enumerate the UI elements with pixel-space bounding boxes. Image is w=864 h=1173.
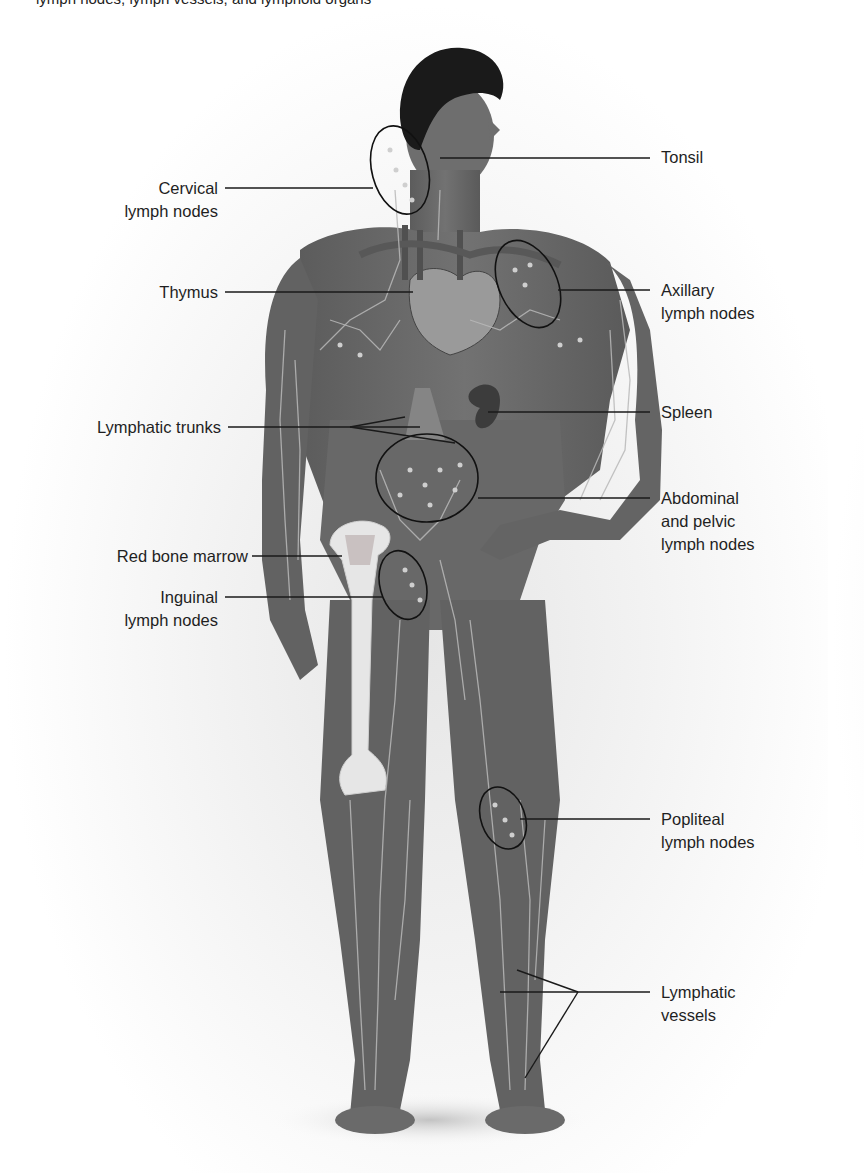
label-abdominal-pelvic-lymph-nodes: Abdominal and pelvic lymph nodes — [661, 487, 755, 556]
label-tonsil: Tonsil — [661, 146, 703, 169]
label-lymphatic-vessels: Lymphatic vessels — [661, 981, 736, 1027]
label-lymphatic-trunks: Lymphatic trunks — [97, 416, 221, 439]
label-axillary-lymph-nodes: Axillary lymph nodes — [661, 279, 755, 325]
label-red-bone-marrow: Red bone marrow — [117, 545, 248, 568]
label-cervical-lymph-nodes: Cervical lymph nodes — [124, 177, 218, 223]
body-silhouette — [262, 48, 662, 1134]
label-spleen: Spleen — [661, 401, 712, 424]
label-inguinal-lymph-nodes: Inguinal lymph nodes — [124, 586, 218, 632]
label-thymus: Thymus — [159, 281, 218, 304]
label-popliteal-lymph-nodes: Popliteal lymph nodes — [661, 808, 755, 854]
red-bone-marrow-region — [345, 535, 375, 565]
